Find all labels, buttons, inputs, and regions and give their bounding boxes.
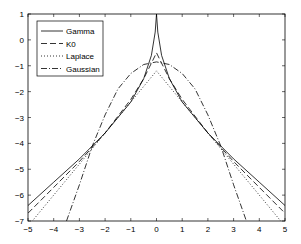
y-tick-label: −3 <box>15 114 25 123</box>
legend: GammaK0LaplaceGaussian <box>37 21 103 76</box>
series-laplace <box>28 71 285 226</box>
y-tick-label: −2 <box>15 88 25 97</box>
legend-label: Laplace <box>66 52 95 61</box>
legend-label: Gamma <box>66 27 95 36</box>
series-k0 <box>28 53 285 213</box>
y-tick-label: −4 <box>15 139 25 148</box>
x-tick-label: 1 <box>180 225 185 234</box>
legend-label: Gaussian <box>66 65 100 74</box>
line-chart: −5−4−3−2−101234510−1−2−3−4−5−6−7GammaK0L… <box>0 0 301 244</box>
x-tick-label: −2 <box>101 225 111 234</box>
x-tick-label: 5 <box>283 225 288 234</box>
legend-label: K0 <box>66 40 76 49</box>
x-tick-label: −3 <box>75 225 85 234</box>
x-tick-label: −5 <box>23 225 33 234</box>
y-tick-label: −5 <box>15 165 25 174</box>
y-tick-label: −6 <box>15 191 25 200</box>
x-tick-label: −4 <box>49 225 59 234</box>
series-gaussian <box>67 62 247 221</box>
y-tick-label: −1 <box>15 62 25 71</box>
x-tick-label: 3 <box>231 225 236 234</box>
y-tick-label: 0 <box>20 36 25 45</box>
y-tick-label: 1 <box>20 10 25 19</box>
x-tick-label: 0 <box>154 225 159 234</box>
x-tick-label: −1 <box>126 225 136 234</box>
y-tick-label: −7 <box>15 217 25 226</box>
x-tick-label: 4 <box>257 225 262 234</box>
x-tick-label: 2 <box>206 225 211 234</box>
